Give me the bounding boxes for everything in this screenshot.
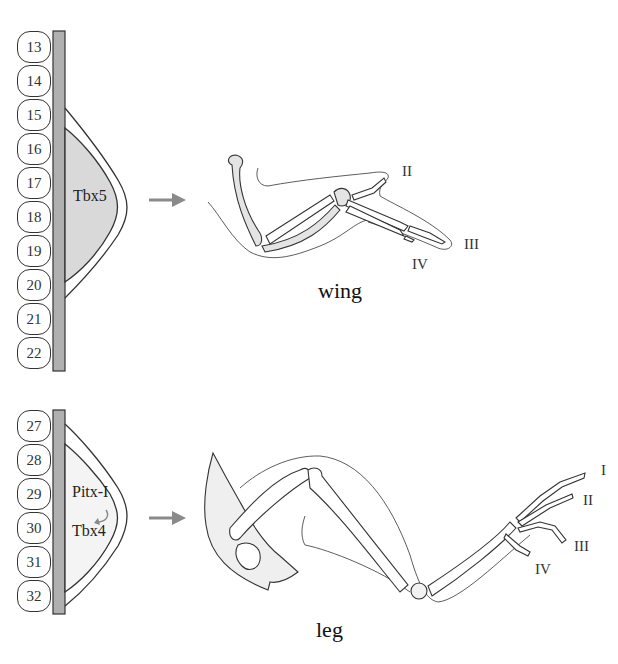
leg-digit-iv-label: IV xyxy=(535,561,551,578)
bottom-neural-tube xyxy=(53,410,65,614)
pitx1-label: Pitx-I xyxy=(72,483,108,501)
leg-digit-i-label: I xyxy=(601,462,606,479)
leg-digit-iii-label: III xyxy=(574,538,589,555)
diagram-drawing-bottom xyxy=(0,0,618,664)
arrow-right-icon xyxy=(149,511,186,525)
tbx4-expression-field xyxy=(65,444,118,592)
leg-skeleton-drawing xyxy=(205,453,585,602)
leg-caption: leg xyxy=(316,617,343,643)
tbx4-label: Tbx4 xyxy=(72,522,106,540)
leg-digit-ii-label: II xyxy=(583,492,593,509)
